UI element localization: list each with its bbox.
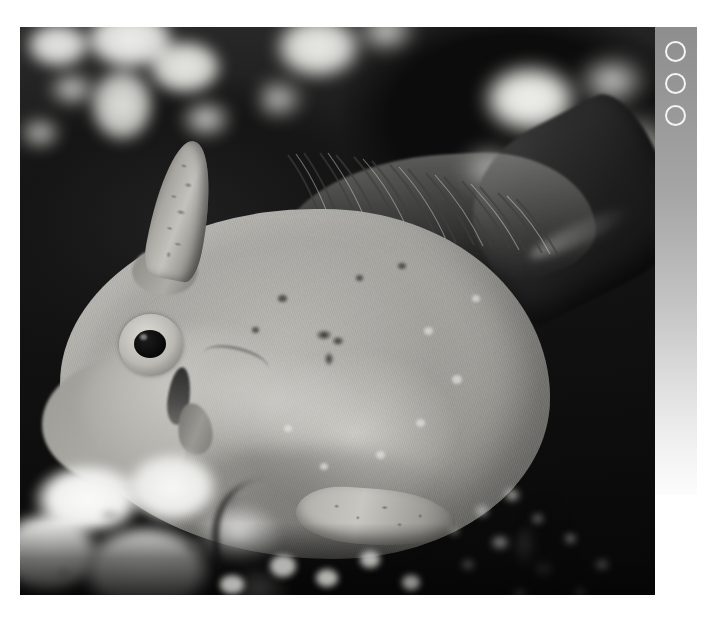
registration-strip bbox=[655, 27, 697, 495]
coral-pebble bbox=[220, 575, 244, 594]
body-spot-light bbox=[416, 419, 425, 427]
registration-ring-1 bbox=[665, 41, 686, 62]
eye-pupil bbox=[134, 330, 166, 358]
registration-ring-2 bbox=[665, 73, 686, 94]
registration-ring-3 bbox=[665, 105, 686, 126]
body-spot-dark bbox=[398, 263, 406, 269]
coral-pebble bbox=[270, 555, 296, 577]
body-spot-dark bbox=[356, 275, 363, 281]
body-spot-light bbox=[472, 295, 480, 302]
body-spot-light bbox=[320, 463, 328, 470]
photograph bbox=[20, 27, 655, 595]
body-spot-light bbox=[424, 327, 433, 335]
coral-pebble bbox=[316, 569, 338, 587]
lower-dark-water bbox=[20, 523, 655, 595]
coral-pebble bbox=[402, 575, 420, 590]
eye-highlight bbox=[140, 334, 147, 340]
body-spot-dark bbox=[252, 327, 259, 333]
body-spot-light bbox=[376, 451, 385, 459]
body-spot-light bbox=[284, 425, 292, 432]
body-spot-dark bbox=[278, 295, 287, 302]
coral-pebble bbox=[360, 551, 380, 568]
page-root bbox=[0, 0, 710, 624]
dark-blotch-marking bbox=[314, 327, 354, 371]
body-spot-light bbox=[452, 375, 462, 384]
